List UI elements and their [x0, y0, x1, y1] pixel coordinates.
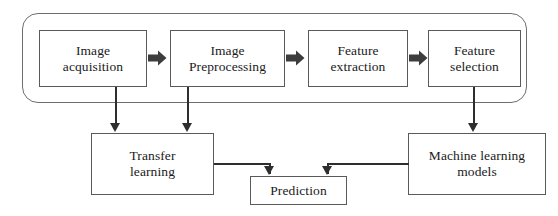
connector-transfer-to-prediction-line [214, 163, 270, 165]
connector-acquisition-to-transfer-line [115, 87, 117, 125]
connector-ml-models-to-prediction-line [327, 163, 409, 165]
node-feature-extraction[interactable]: Feature extraction [308, 30, 408, 87]
node-image-acquisition[interactable]: Image acquisition [39, 30, 147, 87]
node-machine-learning-models[interactable]: Machine learning models [408, 133, 546, 195]
node-image-preprocessing-label: Image Preprocessing [186, 43, 269, 75]
node-feature-selection-label: Feature selection [447, 43, 502, 75]
node-image-preprocessing[interactable]: Image Preprocessing [170, 30, 285, 87]
flowchart-figure: Image acquisition Image Preprocessing Fe… [0, 0, 558, 216]
node-feature-extraction-label: Feature extraction [328, 43, 389, 75]
node-feature-selection[interactable]: Feature selection [428, 30, 521, 87]
block-arrow-right-icon [286, 50, 305, 66]
node-image-acquisition-label: Image acquisition [60, 43, 126, 75]
arrowhead-down-icon [264, 166, 274, 175]
arrowhead-down-icon [322, 166, 332, 175]
arrowhead-down-icon [468, 123, 478, 132]
block-arrow-right-icon [409, 50, 428, 66]
connector-preprocessing-to-transfer-line [187, 87, 189, 125]
arrowhead-down-icon [110, 123, 120, 132]
node-transfer-learning[interactable]: Transfer learning [91, 133, 214, 195]
node-machine-learning-models-label: Machine learning models [426, 148, 528, 180]
node-prediction-label: Prediction [267, 183, 330, 199]
connector-selection-to-ml-models-line [473, 87, 475, 125]
node-transfer-learning-label: Transfer learning [126, 148, 178, 180]
arrowhead-down-icon [182, 123, 192, 132]
block-arrow-right-icon [148, 50, 167, 66]
node-prediction[interactable]: Prediction [250, 176, 347, 205]
